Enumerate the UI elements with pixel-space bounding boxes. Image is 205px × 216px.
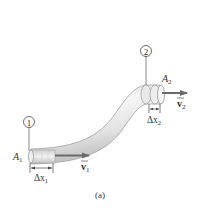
cross-section-a1 <box>29 150 56 163</box>
displacement-2-dimension <box>149 104 160 113</box>
figure-caption: (a) <box>95 190 105 200</box>
velocity-1-label: v1 <box>81 161 90 174</box>
point-1-marker: 1 <box>24 117 35 152</box>
area-1-label: A1 <box>12 151 23 164</box>
displacement-1-dimension <box>30 163 53 173</box>
cross-section-a2 <box>141 85 165 104</box>
point-2-number: 2 <box>144 47 149 57</box>
area-2-label: A2 <box>161 73 172 86</box>
point-1-number: 1 <box>27 118 32 128</box>
displacement-1-label: Δx1 <box>34 173 48 184</box>
displacement-2-label: Δx2 <box>147 115 161 126</box>
point-2-marker: 2 <box>141 46 152 86</box>
diagram-canvas: 1 2 A1 A2 v1 v2 Δx1 Δx2 (a) <box>0 0 205 216</box>
velocity-2-label: v2 <box>177 98 186 111</box>
